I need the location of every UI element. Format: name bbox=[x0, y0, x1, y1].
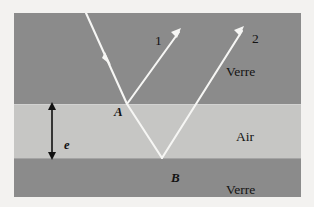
thickness-arrowhead-bottom bbox=[48, 152, 56, 160]
optics-figure: Verre Air Verre A B 1 2 e bbox=[0, 0, 314, 207]
refracted-ray-air bbox=[127, 104, 162, 158]
label-ray-1: 1 bbox=[155, 34, 162, 48]
thickness-arrowhead-top bbox=[48, 102, 56, 110]
glass-air-glass-slab: Verre Air Verre A B 1 2 e bbox=[14, 13, 301, 197]
label-point-b: B bbox=[171, 171, 180, 184]
label-verre-top: Verre bbox=[226, 65, 255, 79]
label-thickness-e: e bbox=[64, 139, 70, 152]
reflected-ray-1 bbox=[127, 32, 179, 104]
label-ray-2: 2 bbox=[252, 32, 259, 46]
label-verre-bottom: Verre bbox=[226, 183, 255, 197]
label-point-a: A bbox=[114, 105, 123, 118]
label-air: Air bbox=[236, 130, 254, 144]
reflected-ray-2 bbox=[162, 31, 242, 158]
